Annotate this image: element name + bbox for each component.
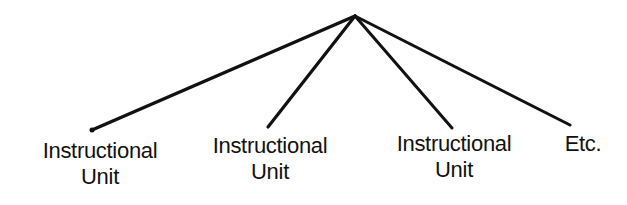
node-label-line: Instructional [213,133,328,159]
node-etc: Etc. [565,131,602,157]
node-label-line: Unit [213,159,328,185]
branch-line-4 [355,16,570,125]
branch-line-1 [92,16,355,130]
node-instructional-unit-1: Instructional Unit [43,138,158,190]
node-label-line: Unit [43,164,158,190]
node-label-line: Unit [397,157,512,183]
node-label-line: Etc. [565,131,602,157]
node-instructional-unit-2: Instructional Unit [213,133,328,185]
node-label-line: Instructional [43,138,158,164]
node-label-line: Instructional [397,131,512,157]
branch-line-2 [268,16,355,127]
node-instructional-unit-3: Instructional Unit [397,131,512,183]
branch-end-dot [90,128,95,133]
branch-line-3 [355,16,452,128]
